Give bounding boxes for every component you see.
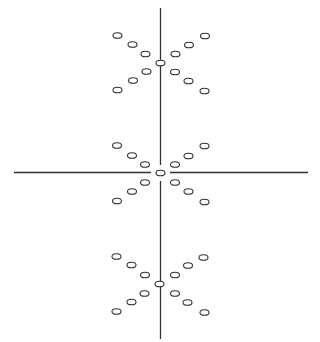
- ellipse-marker: [200, 199, 209, 205]
- ellipse-marker: [184, 189, 193, 195]
- ellipse-marker: [113, 33, 122, 39]
- ellipse-marker: [127, 299, 136, 305]
- ellipse-marker: [184, 263, 193, 269]
- ellipse-marker: [142, 69, 151, 75]
- ellipse-marker: [112, 254, 121, 260]
- ellipse-marker: [201, 33, 210, 39]
- ellipse-marker: [200, 143, 209, 149]
- ellipse-marker: [128, 42, 137, 48]
- ellipse-marker: [113, 143, 122, 149]
- ellipse-marker: [156, 170, 165, 176]
- ellipse-marker: [128, 153, 137, 159]
- ellipse-marker: [155, 281, 164, 287]
- ellipse-marker: [140, 291, 149, 297]
- top-cluster: [113, 33, 210, 94]
- ellipse-marker: [141, 180, 150, 186]
- ellipse-marker: [156, 60, 165, 66]
- ellipse-marker: [184, 153, 193, 159]
- ellipse-marker: [141, 272, 150, 278]
- ellipse-marker: [200, 88, 209, 94]
- ellipse-marker: [184, 78, 193, 84]
- ellipse-marker: [129, 78, 138, 84]
- diagram-canvas: [0, 0, 320, 342]
- ellipse-marker: [171, 180, 180, 186]
- ellipse-marker: [127, 262, 136, 268]
- ellipse-marker: [112, 309, 121, 315]
- ellipse-marker: [171, 272, 180, 278]
- ellipse-marker: [200, 310, 209, 316]
- ellipse-marker: [113, 87, 122, 93]
- ellipse-marker: [113, 198, 122, 204]
- ellipse-marker: [128, 189, 137, 195]
- ellipse-marker: [199, 255, 208, 261]
- ellipse-marker: [185, 42, 194, 48]
- ellipse-marker: [171, 162, 180, 168]
- ellipse-marker: [141, 162, 150, 168]
- ellipse-marker: [171, 69, 180, 75]
- ellipse-marker: [183, 300, 192, 306]
- ellipse-marker: [141, 51, 150, 57]
- ellipse-marker: [171, 51, 180, 57]
- ellipse-marker: [171, 291, 180, 297]
